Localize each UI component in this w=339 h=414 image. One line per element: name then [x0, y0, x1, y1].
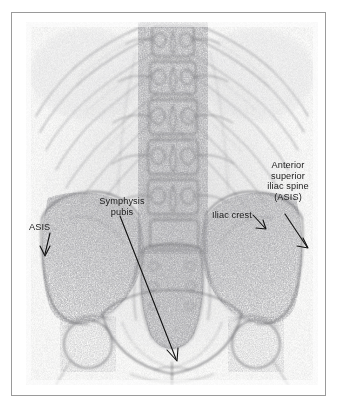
figure-plate: ASIS Symphysis pubis Iliac crest Anterio… — [0, 0, 339, 414]
annotation-label-iliac-crest: Iliac crest — [212, 210, 252, 221]
annotation-label-symphysis-pubis: Symphysis pubis — [85, 196, 159, 217]
radiograph-image — [26, 22, 318, 385]
annotation-label-asis-right: Anterior superior iliac spine (ASIS) — [253, 160, 323, 202]
annotation-label-asis-left: ASIS — [29, 222, 50, 233]
